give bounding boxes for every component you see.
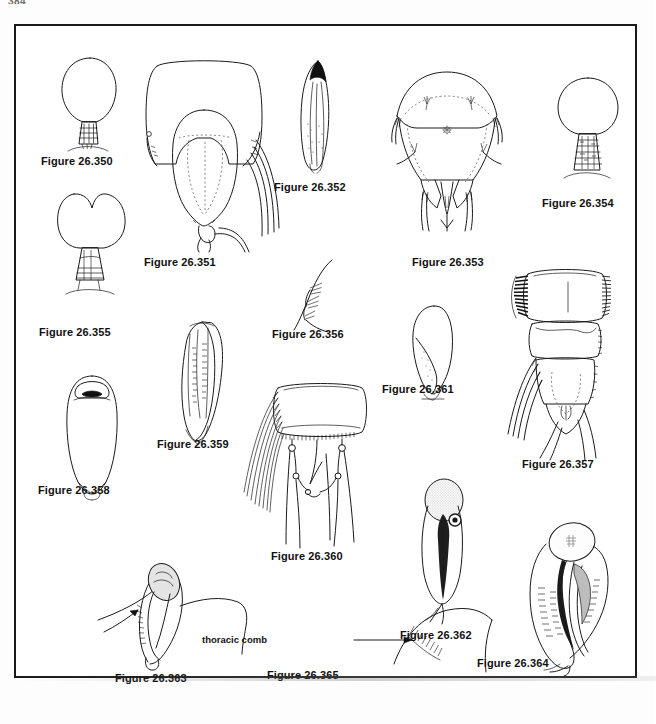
figure-26-353 (379, 68, 515, 233)
caption-26-351: Figure 26.351 (144, 256, 216, 268)
figure-26-350 (46, 52, 132, 157)
caption-26-363: Figure 26.363 (115, 672, 187, 684)
caption-26-355: Figure 26.355 (39, 326, 111, 338)
caption-26-365: Figure 26.365 (267, 669, 339, 681)
figure-26-357 (496, 262, 636, 462)
plate-frame: Figure 26.350 (14, 24, 637, 678)
caption-26-350: Figure 26.350 (41, 155, 113, 167)
caption-26-352: Figure 26.352 (274, 181, 346, 193)
caption-26-356: Figure 26.356 (272, 328, 344, 340)
figure-26-352 (288, 56, 348, 174)
caption-26-361: Figure 26.361 (382, 383, 454, 395)
figure-26-364 (516, 516, 626, 676)
figure-26-363 (94, 554, 294, 672)
figure-26-356 (288, 258, 366, 336)
caption-26-358: Figure 26.358 (38, 484, 110, 496)
annotation-thoracic-comb: thoracic comb (202, 634, 267, 645)
caption-26-359: Figure 26.359 (157, 438, 229, 450)
caption-26-357: Figure 26.357 (522, 458, 594, 470)
figure-26-360 (234, 376, 380, 556)
page-folio: 384 (8, 0, 26, 4)
figure-26-355 (46, 188, 138, 306)
caption-26-354: Figure 26.354 (542, 197, 614, 209)
figure-26-351 (131, 52, 296, 252)
figure-26-358 (54, 370, 130, 500)
figure-26-354 (546, 74, 630, 184)
caption-26-353: Figure 26.353 (412, 256, 484, 268)
